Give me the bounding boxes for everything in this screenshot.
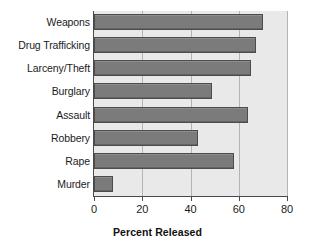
bar[interactable] [94, 176, 113, 192]
x-axis-tick [239, 196, 240, 201]
x-axis-tick-label: 20 [136, 203, 148, 215]
bar-row [94, 11, 287, 34]
bar-row [94, 104, 287, 127]
x-axis-tick [94, 196, 95, 201]
bar-row [94, 150, 287, 173]
y-axis-label: Weapons [0, 11, 90, 34]
bar-row [94, 173, 287, 196]
bar-row [94, 34, 287, 57]
bar[interactable] [94, 14, 263, 30]
x-axis-tick [191, 196, 192, 201]
x-axis-tick-label: 0 [91, 203, 97, 215]
bar[interactable] [94, 60, 251, 76]
y-axis-label: Murder [0, 173, 90, 196]
x-axis-tick-label: 60 [233, 203, 245, 215]
bar-row [94, 80, 287, 103]
bar[interactable] [94, 130, 198, 146]
y-axis-category-labels: WeaponsDrug TraffickingLarceny/TheftBurg… [0, 11, 90, 196]
bar-row [94, 57, 287, 80]
y-axis-line [93, 11, 94, 196]
bars-layer [94, 11, 287, 196]
y-axis-label: Burglary [0, 80, 90, 103]
x-axis-tick-label: 40 [184, 203, 196, 215]
y-axis-label: Assault [0, 104, 90, 127]
y-axis-label: Larceny/Theft [0, 57, 90, 80]
y-axis-label: Drug Trafficking [0, 34, 90, 57]
bar[interactable] [94, 153, 234, 169]
x-axis-title: Percent Released [0, 226, 315, 238]
bar[interactable] [94, 83, 212, 99]
y-axis-label: Rape [0, 150, 90, 173]
x-axis-tick-label: 80 [281, 203, 293, 215]
y-axis-label: Robbery [0, 127, 90, 150]
gridline [287, 11, 288, 196]
bar[interactable] [94, 107, 248, 123]
bar-chart: WeaponsDrug TraffickingLarceny/TheftBurg… [0, 0, 315, 252]
x-axis-tick [142, 196, 143, 201]
x-axis-tick [287, 196, 288, 201]
plot-area [94, 11, 287, 196]
bar[interactable] [94, 37, 256, 53]
bar-row [94, 127, 287, 150]
